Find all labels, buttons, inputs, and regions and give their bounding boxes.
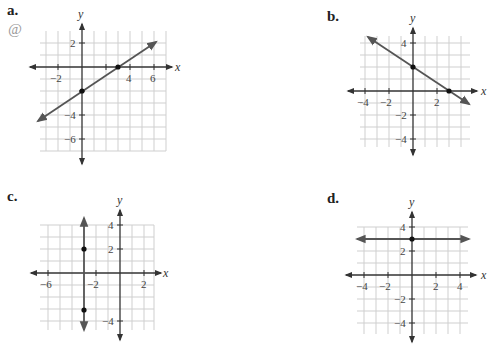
svg-text:−2: −2 <box>50 72 62 84</box>
svg-text:4: 4 <box>400 221 406 233</box>
svg-text:−2: −2 <box>394 293 406 305</box>
graph-d-x-label: x <box>480 268 487 282</box>
graph-b-point-2 <box>446 88 451 93</box>
graph-c-point-1 <box>81 246 86 251</box>
graph-c: −6 −2 2 4 2 −4 x y <box>31 193 169 340</box>
svg-text:−6: −6 <box>64 133 76 145</box>
graph-c-point-2 <box>81 307 86 312</box>
svg-text:−6: −6 <box>40 278 52 290</box>
graph-a-point-2 <box>115 64 120 69</box>
svg-text:−2: −2 <box>395 109 407 121</box>
svg-text:2: 2 <box>400 245 406 257</box>
svg-text:−2: −2 <box>380 96 392 108</box>
svg-text:−4: −4 <box>357 96 369 108</box>
graph-b: −4 −2 2 4 −2 −4 x y <box>348 11 487 155</box>
svg-text:2: 2 <box>70 37 76 49</box>
graph-a: −2 4 6 2 −4 −6 x y <box>30 7 181 164</box>
svg-text:4: 4 <box>108 219 114 231</box>
svg-text:−4: −4 <box>394 317 406 329</box>
graph-c-x-label: x <box>162 266 169 280</box>
svg-text:6: 6 <box>150 72 156 84</box>
svg-text:2: 2 <box>434 96 440 108</box>
svg-text:4: 4 <box>457 280 463 292</box>
graph-c-y-label: y <box>116 193 123 207</box>
graph-a-x-label: x <box>174 60 181 74</box>
graph-d: −4 −2 2 4 4 2 −2 −4 x y <box>346 195 487 342</box>
graph-a-y-label: y <box>77 7 84 21</box>
graph-a-point-1 <box>79 88 84 93</box>
svg-text:−2: −2 <box>379 280 391 292</box>
graph-b-x-label: x <box>480 84 487 98</box>
svg-text:−4: −4 <box>102 315 114 327</box>
svg-text:4: 4 <box>401 37 407 49</box>
graphs-canvas: −2 4 6 2 −4 −6 x y −4 −2 2 4 −2 −4 x y <box>0 0 495 351</box>
svg-text:−4: −4 <box>395 133 407 145</box>
svg-text:4: 4 <box>126 72 132 84</box>
svg-text:−4: −4 <box>64 109 76 121</box>
svg-text:−2: −2 <box>87 278 99 290</box>
graph-b-point-1 <box>410 64 415 69</box>
graph-b-y-label: y <box>409 11 416 25</box>
graph-d-point-1 <box>409 236 414 241</box>
svg-text:−4: −4 <box>356 280 368 292</box>
svg-text:2: 2 <box>433 280 439 292</box>
graph-d-y-label: y <box>408 195 415 209</box>
graph-b-line <box>368 37 469 104</box>
svg-text:2: 2 <box>108 243 114 255</box>
svg-text:2: 2 <box>141 278 147 290</box>
